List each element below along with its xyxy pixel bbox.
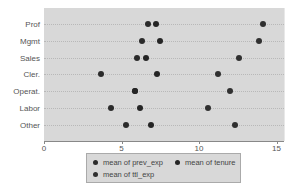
marker-icon xyxy=(175,160,180,165)
data-point xyxy=(143,55,149,61)
x-tick-label: 5 xyxy=(119,144,123,153)
data-point xyxy=(205,105,211,111)
y-tick-label: Other xyxy=(20,121,40,130)
plot-area xyxy=(44,8,285,141)
gridline xyxy=(44,108,284,109)
data-point xyxy=(232,122,238,128)
x-tick-label: 10 xyxy=(195,144,204,153)
data-point xyxy=(108,105,114,111)
x-axis xyxy=(44,141,284,142)
data-point xyxy=(132,88,138,94)
data-point xyxy=(227,88,233,94)
marker-icon xyxy=(93,160,98,165)
data-point xyxy=(139,38,145,44)
marker-icon xyxy=(93,172,98,177)
x-tick-label: 0 xyxy=(42,144,46,153)
data-point xyxy=(123,122,129,128)
y-tick-label: Cler. xyxy=(24,70,40,79)
legend-label: mean of prev_exp xyxy=(103,158,163,167)
data-point xyxy=(153,21,159,27)
data-point xyxy=(154,71,160,77)
data-point xyxy=(157,38,163,44)
gridline xyxy=(44,24,284,25)
data-point xyxy=(145,21,151,27)
legend-label: mean of tenure xyxy=(185,158,235,167)
y-tick-label: Prof xyxy=(25,20,40,29)
data-point xyxy=(148,122,154,128)
data-point xyxy=(137,105,143,111)
legend: mean of prev_exp mean of tenure mean of … xyxy=(86,153,241,183)
legend-item-prev-exp: mean of prev_exp xyxy=(93,158,163,167)
data-point xyxy=(260,21,266,27)
gridline xyxy=(44,74,284,75)
x-tick-label: 15 xyxy=(272,144,281,153)
legend-item-ttl-exp: mean of ttl_exp xyxy=(93,170,154,179)
y-tick-label: Mgmt xyxy=(20,37,40,46)
y-tick-label: Sales xyxy=(20,54,40,63)
gridline xyxy=(44,91,284,92)
data-point xyxy=(98,71,104,77)
y-tick-label: Labor xyxy=(20,104,40,113)
gridline xyxy=(44,125,284,126)
data-point xyxy=(256,38,262,44)
gridline xyxy=(44,41,284,42)
legend-item-tenure: mean of tenure xyxy=(175,158,235,167)
gridline xyxy=(44,58,284,59)
data-point xyxy=(215,71,221,77)
y-tick-label: Operat. xyxy=(13,87,40,96)
legend-label: mean of ttl_exp xyxy=(103,170,154,179)
data-point xyxy=(134,55,140,61)
data-point xyxy=(236,55,242,61)
